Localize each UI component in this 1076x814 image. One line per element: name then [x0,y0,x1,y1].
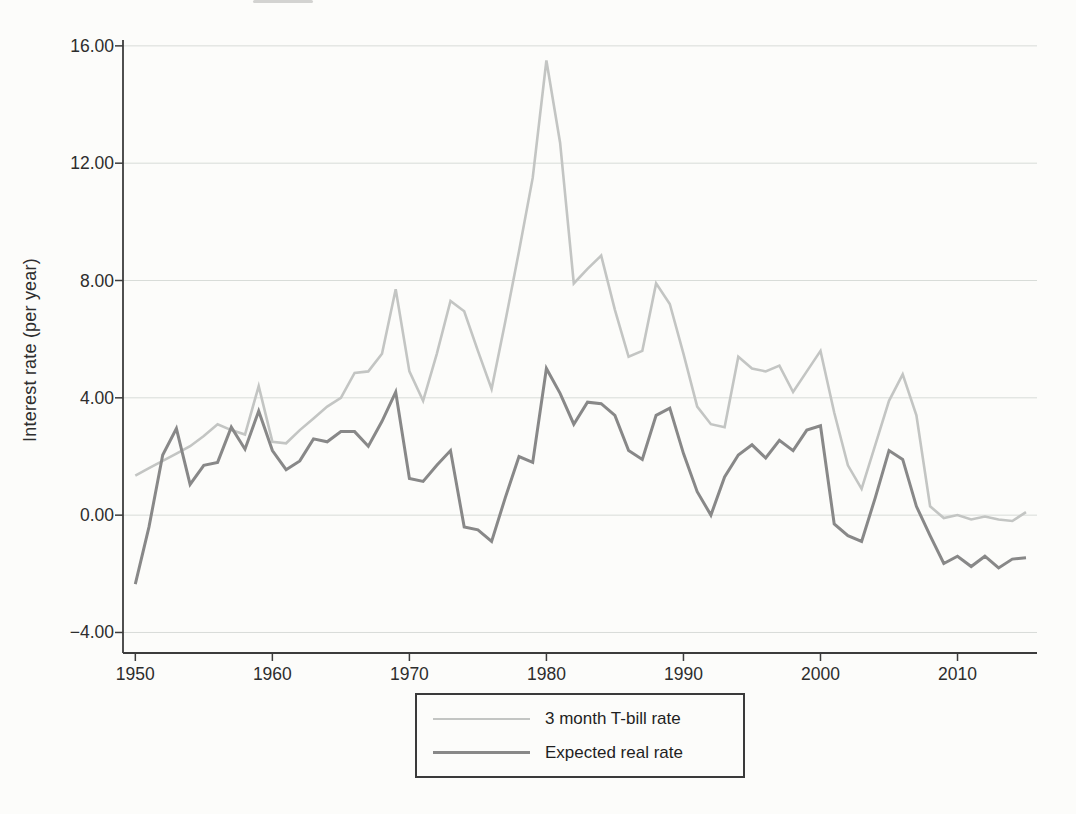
legend-swatch-line [433,718,530,720]
x-tick-label-2000: 2000 [785,664,855,684]
y-tick-label-12: 12.00 [34,153,114,173]
x-tick-label-1990: 1990 [648,664,718,684]
x-tick-label-1970: 1970 [374,664,444,684]
chart-figure: Interest rate (per year) 16.0012.008.004… [0,0,1076,814]
x-tick-label-1950: 1950 [100,664,170,684]
y-tick-label-8: 8.00 [34,271,114,291]
series-line-expected-real-rate [135,369,1026,585]
plot-area [0,0,1076,814]
x-tick-label-2010: 2010 [923,664,993,684]
y-tick-label-0: 0.00 [34,505,114,525]
legend-swatch-line [433,751,530,754]
legend-item-expected-real-rate: Expected real rate [433,743,743,763]
x-tick-label-1960: 1960 [237,664,307,684]
y-tick-label-16: 16.00 [34,36,114,56]
legend: 3 month T-bill rateExpected real rate [415,693,745,778]
x-tick-label-1980: 1980 [511,664,581,684]
legend-item-tbill-rate: 3 month T-bill rate [433,709,743,729]
legend-label: 3 month T-bill rate [545,709,681,729]
y-tick-label-4: 4.00 [34,388,114,408]
legend-label: Expected real rate [545,743,683,763]
y-tick-label--4: −4.00 [34,622,114,642]
